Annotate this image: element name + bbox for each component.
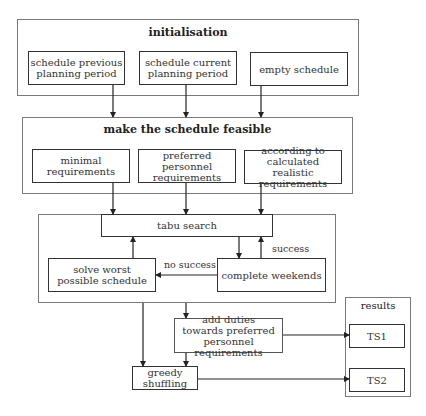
solve-worst-box: solve worst possible schedule (48, 258, 156, 292)
feasible-title: make the schedule feasible (22, 123, 353, 136)
realistic-requirements-box: according to calculated realistic requir… (244, 150, 342, 184)
initialisation-title: initialisation (17, 26, 359, 39)
schedule-current-box: schedule current planning period (139, 51, 237, 85)
tabu-search-box: tabu search (101, 214, 273, 237)
complete-weekends-box: complete weekends (217, 258, 326, 292)
results-title: results (345, 300, 411, 311)
no-success-label: no success (164, 259, 216, 270)
ts1-box: TS1 (349, 324, 405, 348)
greedy-shuffling-box: greedy shuffling (132, 366, 198, 390)
ts2-box: TS2 (349, 368, 405, 392)
add-duties-box: add duties towards preferred personnel r… (174, 318, 283, 353)
preferred-personnel-box: preferred personnel requirements (138, 149, 236, 183)
schedule-previous-box: schedule previous planning period (28, 51, 125, 85)
empty-schedule-box: empty schedule (250, 52, 348, 86)
minimal-requirements-box: minimal requirements (32, 149, 130, 183)
success-label: success (272, 243, 309, 254)
